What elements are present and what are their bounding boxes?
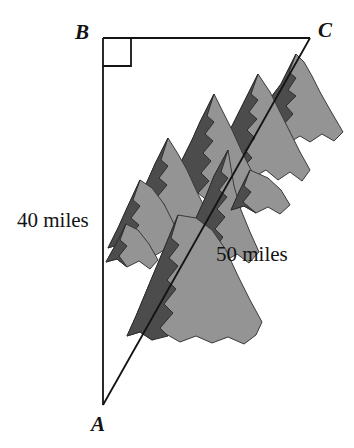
side-label-hypotenuse-ac: 50 miles — [216, 244, 288, 265]
vertex-label-b: B — [75, 22, 89, 43]
right-angle-marker — [103, 38, 131, 66]
vertex-label-a: A — [91, 414, 105, 435]
vertex-label-c: C — [318, 20, 332, 41]
math-figure: B C A 40 miles 50 miles — [0, 0, 354, 448]
side-label-leg-ab: 40 miles — [17, 210, 89, 231]
mountain-range-illustration — [106, 54, 343, 344]
